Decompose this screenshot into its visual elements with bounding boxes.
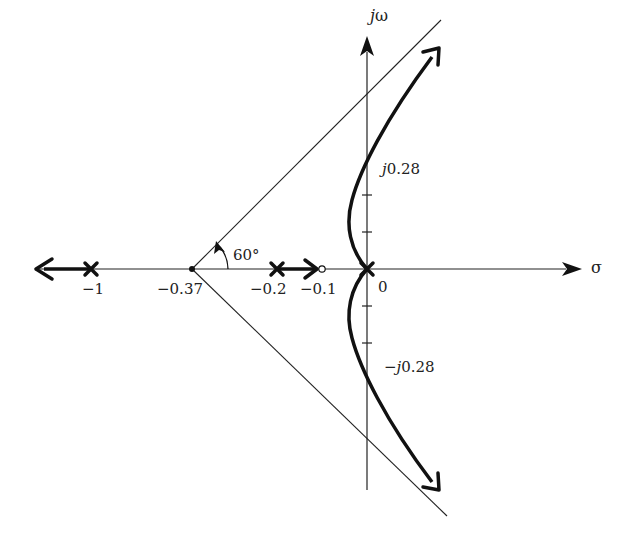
zero-label-minus-0-1: −0.1 [300, 282, 336, 297]
pole-label-minus-1: −1 [82, 282, 104, 297]
asymptote-upper [192, 20, 441, 269]
pole-label-minus-0-2: −0.2 [250, 282, 286, 297]
angle-indicator [214, 241, 228, 269]
jw-crossing-lower-label: −j0.28 [384, 360, 435, 375]
centroid-dot [189, 266, 195, 272]
root-locus-diagram [0, 0, 625, 549]
jw-crossing-upper-label: j0.28 [382, 162, 420, 177]
pole-label-0: 0 [378, 280, 388, 295]
imag-axis-label: jω [370, 8, 388, 24]
asymptote-lower [192, 269, 447, 516]
zero-o-icon [319, 266, 325, 272]
centroid-label: −0.37 [157, 282, 203, 297]
angle-label: 60° [233, 248, 260, 263]
real-axis-label: σ [591, 260, 602, 276]
